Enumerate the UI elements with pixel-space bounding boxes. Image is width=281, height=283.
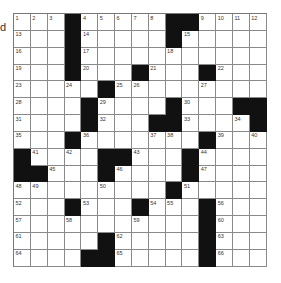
grid-cell[interactable] bbox=[81, 216, 98, 233]
grid-cell[interactable] bbox=[31, 115, 48, 132]
grid-cell[interactable]: 11 bbox=[233, 14, 250, 31]
grid-cell[interactable]: 23 bbox=[14, 81, 31, 98]
grid-cell[interactable] bbox=[149, 250, 166, 267]
grid-cell[interactable]: 30 bbox=[182, 98, 199, 115]
grid-cell[interactable] bbox=[98, 48, 115, 65]
grid-cell[interactable]: 28 bbox=[14, 98, 31, 115]
grid-cell[interactable] bbox=[48, 250, 65, 267]
grid-cell[interactable] bbox=[250, 31, 267, 48]
grid-cell[interactable]: 39 bbox=[216, 132, 233, 149]
grid-cell[interactable] bbox=[115, 48, 132, 65]
grid-cell[interactable]: 21 bbox=[149, 65, 166, 82]
grid-cell[interactable]: 43 bbox=[132, 149, 149, 166]
grid-cell[interactable] bbox=[48, 115, 65, 132]
grid-cell[interactable] bbox=[216, 31, 233, 48]
grid-cell[interactable]: 33 bbox=[182, 115, 199, 132]
grid-cell[interactable] bbox=[65, 166, 82, 183]
grid-cell[interactable]: 56 bbox=[216, 199, 233, 216]
grid-cell[interactable]: 47 bbox=[199, 166, 216, 183]
grid-cell[interactable] bbox=[149, 31, 166, 48]
grid-cell[interactable] bbox=[31, 199, 48, 216]
grid-cell[interactable]: 38 bbox=[166, 132, 183, 149]
grid-cell[interactable] bbox=[250, 199, 267, 216]
grid-cell[interactable] bbox=[31, 233, 48, 250]
grid-cell[interactable] bbox=[115, 216, 132, 233]
grid-cell[interactable] bbox=[31, 132, 48, 149]
grid-cell[interactable]: 5 bbox=[98, 14, 115, 31]
grid-cell[interactable] bbox=[233, 216, 250, 233]
grid-cell[interactable] bbox=[199, 115, 216, 132]
grid-cell[interactable]: 66 bbox=[216, 250, 233, 267]
grid-cell[interactable] bbox=[233, 149, 250, 166]
grid-cell[interactable] bbox=[233, 182, 250, 199]
grid-cell[interactable] bbox=[98, 199, 115, 216]
grid-cell[interactable]: 64 bbox=[14, 250, 31, 267]
grid-cell[interactable] bbox=[81, 182, 98, 199]
grid-cell[interactable] bbox=[216, 48, 233, 65]
grid-cell[interactable] bbox=[149, 98, 166, 115]
grid-cell[interactable]: 24 bbox=[65, 81, 82, 98]
grid-cell[interactable]: 62 bbox=[115, 233, 132, 250]
grid-cell[interactable] bbox=[132, 31, 149, 48]
grid-cell[interactable] bbox=[250, 216, 267, 233]
grid-cell[interactable] bbox=[149, 216, 166, 233]
grid-cell[interactable]: 14 bbox=[81, 31, 98, 48]
grid-cell[interactable] bbox=[250, 48, 267, 65]
grid-cell[interactable] bbox=[149, 81, 166, 98]
grid-cell[interactable] bbox=[115, 132, 132, 149]
grid-cell[interactable] bbox=[199, 48, 216, 65]
grid-cell[interactable] bbox=[182, 132, 199, 149]
grid-cell[interactable]: 3 bbox=[48, 14, 65, 31]
grid-cell[interactable]: 48 bbox=[14, 182, 31, 199]
grid-cell[interactable] bbox=[98, 132, 115, 149]
grid-cell[interactable]: 9 bbox=[199, 14, 216, 31]
grid-cell[interactable] bbox=[48, 216, 65, 233]
grid-cell[interactable]: 7 bbox=[132, 14, 149, 31]
grid-cell[interactable]: 36 bbox=[81, 132, 98, 149]
grid-cell[interactable] bbox=[115, 65, 132, 82]
grid-cell[interactable] bbox=[166, 233, 183, 250]
grid-cell[interactable]: 15 bbox=[182, 31, 199, 48]
grid-cell[interactable] bbox=[199, 31, 216, 48]
grid-cell[interactable] bbox=[81, 166, 98, 183]
grid-cell[interactable]: 25 bbox=[115, 81, 132, 98]
grid-cell[interactable] bbox=[132, 182, 149, 199]
grid-cell[interactable] bbox=[115, 98, 132, 115]
grid-cell[interactable] bbox=[216, 149, 233, 166]
grid-cell[interactable] bbox=[48, 98, 65, 115]
grid-cell[interactable]: 22 bbox=[216, 65, 233, 82]
grid-cell[interactable]: 8 bbox=[149, 14, 166, 31]
grid-cell[interactable]: 31 bbox=[14, 115, 31, 132]
grid-cell[interactable] bbox=[132, 98, 149, 115]
grid-cell[interactable]: 61 bbox=[14, 233, 31, 250]
grid-cell[interactable] bbox=[182, 216, 199, 233]
grid-cell[interactable] bbox=[182, 81, 199, 98]
grid-cell[interactable]: 41 bbox=[31, 149, 48, 166]
grid-cell[interactable]: 53 bbox=[81, 199, 98, 216]
grid-cell[interactable]: 49 bbox=[31, 182, 48, 199]
grid-cell[interactable]: 45 bbox=[48, 166, 65, 183]
grid-cell[interactable] bbox=[233, 166, 250, 183]
grid-cell[interactable]: 2 bbox=[31, 14, 48, 31]
grid-cell[interactable]: 12 bbox=[250, 14, 267, 31]
grid-cell[interactable] bbox=[48, 149, 65, 166]
grid-cell[interactable] bbox=[250, 233, 267, 250]
grid-cell[interactable]: 29 bbox=[98, 98, 115, 115]
grid-cell[interactable] bbox=[48, 199, 65, 216]
grid-cell[interactable]: 65 bbox=[115, 250, 132, 267]
grid-cell[interactable] bbox=[166, 149, 183, 166]
grid-cell[interactable]: 1 bbox=[14, 14, 31, 31]
grid-cell[interactable]: 35 bbox=[14, 132, 31, 149]
grid-cell[interactable] bbox=[149, 48, 166, 65]
grid-cell[interactable]: 51 bbox=[182, 182, 199, 199]
grid-cell[interactable] bbox=[132, 115, 149, 132]
grid-cell[interactable] bbox=[250, 81, 267, 98]
grid-cell[interactable]: 57 bbox=[14, 216, 31, 233]
grid-cell[interactable] bbox=[31, 65, 48, 82]
grid-cell[interactable]: 42 bbox=[65, 149, 82, 166]
grid-cell[interactable]: 59 bbox=[132, 216, 149, 233]
grid-cell[interactable]: 26 bbox=[132, 81, 149, 98]
grid-cell[interactable] bbox=[233, 48, 250, 65]
grid-cell[interactable] bbox=[48, 31, 65, 48]
grid-cell[interactable]: 60 bbox=[216, 216, 233, 233]
